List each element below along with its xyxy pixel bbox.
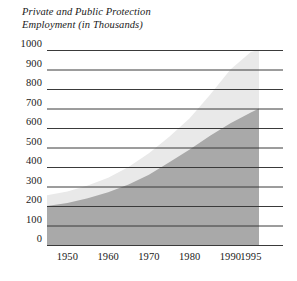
y-tick-label-100: 100 [12, 214, 42, 225]
chart-plot-svg [0, 0, 297, 281]
y-tick-label-800: 800 [12, 77, 42, 88]
x-tick-label-1980: 1980 [173, 251, 207, 262]
x-tick-label-1950: 1950 [50, 251, 84, 262]
y-tick-label-200: 200 [12, 194, 42, 205]
y-tick-label-700: 700 [12, 97, 42, 108]
y-tick-label-900: 900 [12, 58, 42, 69]
y-tick-label-1000: 1000 [12, 38, 42, 49]
x-tick-label-1995: 1995 [234, 251, 268, 262]
plot-region [0, 0, 297, 281]
x-tick-label-1970: 1970 [132, 251, 166, 262]
x-tick-label-1960: 1960 [91, 251, 125, 262]
y-tick-label-0: 0 [12, 233, 42, 244]
y-tick-label-400: 400 [12, 155, 42, 166]
y-tick-label-300: 300 [12, 175, 42, 186]
y-tick-label-600: 600 [12, 116, 42, 127]
y-tick-label-500: 500 [12, 136, 42, 147]
chart-figure: Private and Public Protection Employment… [0, 0, 297, 281]
